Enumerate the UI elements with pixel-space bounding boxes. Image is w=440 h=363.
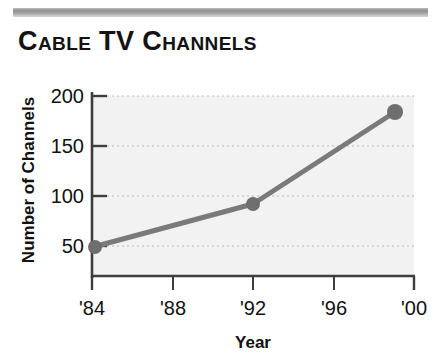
x-tick-label-84: '84 — [62, 298, 122, 318]
x-tick-label-92: '92 — [223, 298, 283, 318]
x-tick-label-96: '96 — [304, 298, 364, 318]
chart-figure: Cable TV Channels Number of Channels Yea… — [0, 0, 440, 363]
x-tick-label-88: '88 — [143, 298, 203, 318]
x-axis-tick-labels: '84 '88 '92 '96 '00 — [0, 0, 440, 363]
x-tick-label-00: '00 — [384, 298, 440, 318]
